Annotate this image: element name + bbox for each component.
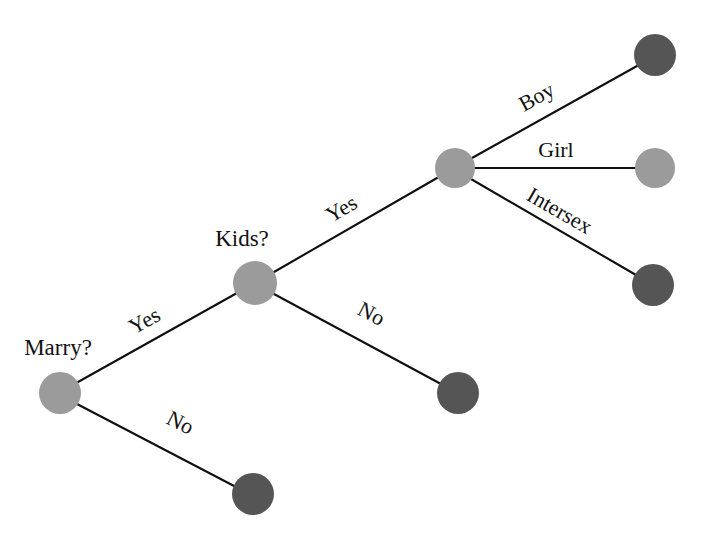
edge-label-sex-girl: Girl: [538, 137, 573, 162]
edge-label-sex-boy: Boy: [514, 77, 558, 117]
edge-labels-layer: YesNoYesNoBoyGirlIntersex: [124, 77, 596, 440]
decision-tree-diagram: YesNoYesNoBoyGirlIntersex Marry?Kids?: [0, 0, 701, 545]
edge-label-marry-yes: Yes: [124, 302, 164, 339]
edge-kids-yes: [274, 178, 437, 272]
node-labels-layer: Marry?Kids?: [24, 226, 269, 360]
edge-label-marry-no: No: [163, 405, 198, 439]
node-kids[interactable]: [233, 261, 277, 305]
edge-kids-no: [274, 294, 441, 384]
edge-marry-no: [77, 404, 236, 487]
node-no-marry[interactable]: [232, 473, 274, 515]
node-boy[interactable]: [634, 34, 676, 76]
edge-label-kids-no: No: [354, 296, 389, 331]
node-marry[interactable]: [39, 372, 81, 414]
node-label-kids: Kids?: [215, 226, 269, 251]
nodes-layer: [39, 34, 676, 515]
decision-tree-canvas: YesNoYesNoBoyGirlIntersex Marry?Kids?: [0, 0, 701, 545]
edge-marry-yes: [78, 293, 237, 382]
node-sex[interactable]: [435, 148, 475, 188]
node-girl[interactable]: [635, 148, 675, 188]
edges-layer: [77, 66, 637, 487]
node-intersex[interactable]: [632, 264, 674, 306]
node-label-marry: Marry?: [24, 335, 92, 360]
edge-label-kids-yes: Yes: [321, 190, 361, 228]
node-no-kids[interactable]: [437, 372, 479, 414]
